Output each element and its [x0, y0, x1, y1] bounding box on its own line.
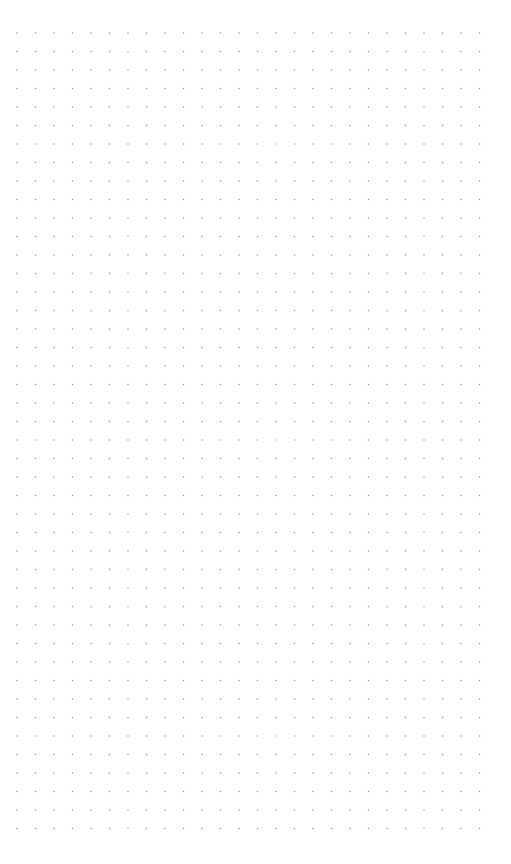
grid-dot	[90, 421, 92, 423]
grid-dot	[35, 513, 37, 515]
grid-dot	[238, 143, 240, 145]
grid-dot	[127, 476, 129, 478]
grid-dot	[257, 310, 259, 312]
grid-dot	[90, 199, 92, 201]
grid-dot	[16, 254, 18, 256]
grid-dot	[72, 88, 74, 90]
grid-dot	[275, 624, 277, 626]
grid-dot	[90, 106, 92, 108]
grid-dot	[294, 291, 296, 293]
grid-dot	[294, 125, 296, 127]
grid-dot	[460, 236, 462, 238]
grid-dot	[90, 32, 92, 34]
grid-dot	[312, 347, 314, 349]
grid-dot	[386, 661, 388, 663]
grid-dot	[442, 125, 444, 127]
grid-dot	[220, 125, 222, 127]
grid-dot	[312, 680, 314, 682]
grid-dot	[275, 698, 277, 700]
grid-dot	[72, 550, 74, 552]
grid-dot	[275, 88, 277, 90]
grid-dot	[460, 661, 462, 663]
grid-dot	[201, 88, 203, 90]
grid-dot	[312, 328, 314, 330]
grid-dot	[386, 199, 388, 201]
grid-dot	[35, 347, 37, 349]
grid-dot	[405, 606, 407, 608]
grid-dot	[405, 254, 407, 256]
grid-dot	[127, 365, 129, 367]
grid-dot	[35, 458, 37, 460]
grid-dot	[53, 106, 55, 108]
grid-dot	[460, 69, 462, 71]
grid-dot	[331, 532, 333, 534]
grid-dot	[220, 291, 222, 293]
grid-dot	[164, 125, 166, 127]
grid-dot	[257, 328, 259, 330]
grid-dot	[109, 236, 111, 238]
grid-dot	[423, 587, 425, 589]
grid-dot	[127, 661, 129, 663]
grid-dot	[275, 217, 277, 219]
grid-dot	[72, 495, 74, 497]
grid-dot	[90, 587, 92, 589]
grid-dot	[109, 569, 111, 571]
grid-dot	[460, 106, 462, 108]
grid-dot	[201, 328, 203, 330]
grid-dot	[238, 328, 240, 330]
grid-dot	[423, 717, 425, 719]
grid-dot	[238, 180, 240, 182]
grid-dot	[257, 828, 259, 830]
grid-dot	[368, 458, 370, 460]
grid-dot	[368, 772, 370, 774]
grid-dot	[312, 717, 314, 719]
grid-dot	[238, 791, 240, 793]
grid-dot	[405, 347, 407, 349]
grid-dot	[90, 365, 92, 367]
grid-dot	[146, 791, 148, 793]
grid-dot	[275, 384, 277, 386]
grid-dot	[16, 495, 18, 497]
grid-dot	[368, 217, 370, 219]
grid-dot	[220, 162, 222, 164]
grid-dot	[164, 402, 166, 404]
grid-dot	[349, 569, 351, 571]
grid-dot	[53, 328, 55, 330]
grid-dot	[72, 254, 74, 256]
grid-dot	[386, 347, 388, 349]
grid-dot	[127, 772, 129, 774]
grid-dot	[127, 680, 129, 682]
grid-dot	[275, 273, 277, 275]
grid-dot	[201, 624, 203, 626]
grid-dot	[460, 735, 462, 737]
dot-grid-canvas[interactable]	[0, 0, 511, 864]
grid-dot	[368, 365, 370, 367]
grid-dot	[331, 217, 333, 219]
grid-dot	[109, 402, 111, 404]
grid-dot	[201, 310, 203, 312]
grid-dot	[368, 143, 370, 145]
grid-dot	[442, 680, 444, 682]
grid-dot	[386, 717, 388, 719]
grid-dot	[16, 310, 18, 312]
grid-dot	[275, 680, 277, 682]
grid-dot	[275, 606, 277, 608]
grid-dot	[331, 809, 333, 811]
grid-dot	[238, 254, 240, 256]
grid-dot	[479, 328, 481, 330]
grid-dot	[386, 32, 388, 34]
grid-dot	[90, 328, 92, 330]
grid-dot	[127, 439, 129, 441]
grid-dot	[479, 532, 481, 534]
grid-dot	[146, 495, 148, 497]
grid-dot	[127, 828, 129, 830]
grid-dot	[164, 661, 166, 663]
grid-dot	[386, 69, 388, 71]
grid-dot	[275, 643, 277, 645]
grid-dot	[72, 347, 74, 349]
grid-dot	[294, 106, 296, 108]
grid-dot	[16, 661, 18, 663]
grid-dot	[479, 162, 481, 164]
grid-dot	[479, 365, 481, 367]
grid-dot	[90, 236, 92, 238]
